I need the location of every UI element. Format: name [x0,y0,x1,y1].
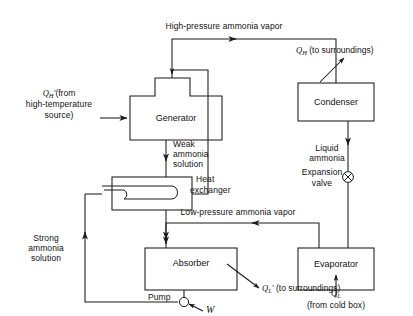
condenser-label: Condenser [314,97,358,107]
ql-in-text: (from cold box) [307,300,365,311]
absorber-box [145,248,237,290]
weak-solution-label-line3: solution [173,159,203,170]
expansion-valve-cross [344,173,352,181]
low-pressure-vapor-label: Low-pressure ammonia vapor [180,207,295,218]
pipe-low-pressure-vapor-b [166,223,256,244]
arrow-work-in [189,304,203,311]
ql-in-subscript: L [337,292,341,299]
high-pressure-vapor-label: High-pressure ammonia vapor [165,21,282,32]
absorber-label: Absorber [173,258,210,268]
ql-out-prime: ′ [272,283,274,293]
qh-out-label: QH (to surroundings) [296,45,373,59]
generator-label: Generator [156,113,197,123]
liquid-ammonia-label-line1: Liquid [315,143,338,154]
qh-in-text-line3: source) [44,110,73,121]
arrow-qh-out [320,58,344,82]
heat-exchanger-label-line1: Heat [196,174,214,185]
figure-canvas: Generator Condenser Absorber Evaporator … [0,0,413,316]
work-label: W [206,305,214,316]
strong-solution-label-line3: solution [31,253,61,264]
weak-solution-label-line2: ammonia [173,149,209,160]
expansion-valve-label-line1: Expansion [302,167,343,178]
pump-symbol [179,297,188,306]
heat-exchanger-box [112,177,192,210]
pipe-low-pressure-vapor-a [252,223,319,248]
heat-exchanger-label-line2: exchanger [190,185,231,196]
weak-solution-label-line1: Weak [173,139,195,150]
qh-out-text: (to surroundings) [309,45,373,55]
expansion-valve-label-line2: valve [312,178,332,189]
strong-solution-label-line1: Strong [33,233,59,244]
arrow-ql-out [227,264,259,288]
strong-solution-label-line2: ammonia [28,243,64,254]
qh-in-text-line2: high-temperature [26,99,92,110]
liquid-ammonia-label-line2: ammonia [309,153,345,164]
ql-out-label: QL′ (to surroundings) [262,283,340,297]
pipe-high-pressure-vapor-a [172,39,236,78]
heat-exchanger-coil [102,186,177,199]
evaporator-label: Evaporator [314,259,358,269]
qh-out-subscript: H [302,49,307,56]
pump-label: Pump [148,292,171,303]
qh-in-text-line1: (from [55,88,75,98]
